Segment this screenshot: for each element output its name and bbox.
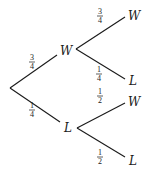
node-l-level1: L — [63, 121, 72, 135]
numerator: 1 — [30, 101, 34, 110]
edge-l-to-lw — [77, 103, 125, 128]
prob-label-w-w: 3 4 — [97, 7, 103, 25]
node-ww: W — [128, 9, 142, 23]
node-lw: W — [128, 95, 142, 109]
denominator: 4 — [30, 110, 34, 119]
prob-label-l-l: 1 2 — [97, 148, 103, 166]
numerator: 1 — [97, 65, 101, 74]
denominator: 2 — [98, 157, 102, 166]
denominator: 4 — [30, 62, 34, 71]
numerator: 1 — [98, 148, 102, 157]
prob-label-l-w: 1 2 — [97, 87, 103, 105]
probability-tree: W L W L W L 3 4 1 4 3 4 1 4 1 2 1 2 — [0, 0, 145, 173]
prob-label-w-l: 1 4 — [96, 65, 102, 83]
prob-label-root-w: 3 4 — [29, 53, 35, 71]
denominator: 2 — [98, 96, 102, 105]
edge-root-to-l — [10, 88, 60, 122]
numerator: 1 — [98, 87, 102, 96]
prob-label-root-l: 1 4 — [29, 101, 35, 119]
denominator: 4 — [97, 74, 101, 83]
node-wl: L — [128, 74, 137, 88]
denominator: 4 — [98, 16, 102, 25]
numerator: 3 — [98, 7, 102, 16]
node-ll: L — [128, 154, 137, 168]
numerator: 3 — [30, 53, 34, 62]
node-w-level1: W — [60, 44, 74, 58]
